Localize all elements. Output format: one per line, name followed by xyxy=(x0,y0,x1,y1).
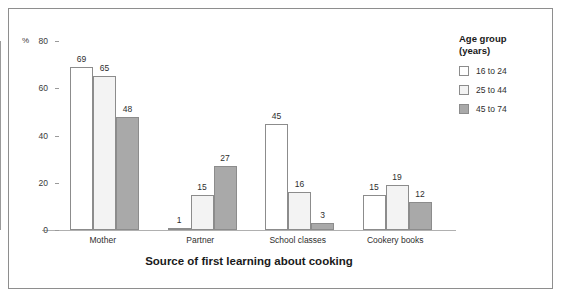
x-axis-title: Source of first learning about cooking xyxy=(54,255,444,268)
bar-value-label: 15 xyxy=(191,183,214,192)
y-axis-tick-label: 20 xyxy=(18,179,48,188)
chart-figure: % 020406080 6965481152745163151912 Mothe… xyxy=(0,0,563,299)
legend-item[interactable]: 45 to 74 xyxy=(459,104,549,114)
bar-group: 45163 xyxy=(265,41,334,230)
bar-value-label: 19 xyxy=(386,173,409,182)
bar-group: 11527 xyxy=(168,41,237,230)
legend-items: 16 to 2425 to 4445 to 74 xyxy=(459,66,549,114)
bar-value-label: 69 xyxy=(70,55,93,64)
y-axis-tick-label: 40 xyxy=(18,132,48,141)
bar-value-label: 16 xyxy=(288,180,311,189)
bar[interactable] xyxy=(93,76,116,230)
chart-legend: Age group (years) 16 to 2425 to 4445 to … xyxy=(459,33,549,123)
bar-value-label: 15 xyxy=(363,183,386,192)
bar[interactable] xyxy=(191,195,214,230)
plot-area: 6965481152745163151912 xyxy=(54,41,444,230)
bar[interactable] xyxy=(265,124,288,230)
legend-title: Age group (years) xyxy=(459,33,549,57)
bar[interactable] xyxy=(116,117,139,230)
y-axis-tick-label: 60 xyxy=(18,84,48,93)
y-axis-tick-label: 80 xyxy=(18,37,48,46)
dark-gray-square-icon xyxy=(459,104,469,114)
bar-value-label: 27 xyxy=(214,154,237,163)
bar[interactable] xyxy=(288,192,311,230)
bar-group: 696548 xyxy=(70,41,139,230)
legend-item-label: 45 to 74 xyxy=(476,105,507,114)
bar-value-label: 45 xyxy=(265,112,288,121)
bar[interactable] xyxy=(363,195,386,230)
bar[interactable] xyxy=(168,228,191,230)
legend-item-label: 16 to 24 xyxy=(476,67,507,76)
bar-value-label: 12 xyxy=(409,190,432,199)
bar-value-label: 48 xyxy=(116,105,139,114)
y-axis-tick-label: 0 xyxy=(18,226,48,235)
bar-group: 151912 xyxy=(363,41,432,230)
bar[interactable] xyxy=(409,202,432,230)
light-gray-square-icon xyxy=(459,85,469,95)
white-square-icon xyxy=(459,66,469,76)
bar[interactable] xyxy=(214,166,237,230)
y-axis-line xyxy=(0,41,1,230)
legend-item[interactable]: 25 to 44 xyxy=(459,85,549,95)
bar[interactable] xyxy=(70,67,93,230)
x-axis-category-label: Partner xyxy=(152,236,250,245)
x-axis-category-label: Mother xyxy=(54,236,152,245)
legend-item-label: 25 to 44 xyxy=(476,86,507,95)
x-axis-baseline xyxy=(42,230,456,231)
legend-item[interactable]: 16 to 24 xyxy=(459,66,549,76)
x-axis-category-label: Cookery books xyxy=(347,236,445,245)
x-axis-category-label: School classes xyxy=(249,236,347,245)
bar-value-label: 65 xyxy=(93,64,116,73)
y-axis-tick xyxy=(55,230,59,231)
bar[interactable] xyxy=(386,185,409,230)
bar-value-label: 3 xyxy=(311,211,334,220)
bar[interactable] xyxy=(311,223,334,230)
bar-value-label: 1 xyxy=(168,216,191,225)
